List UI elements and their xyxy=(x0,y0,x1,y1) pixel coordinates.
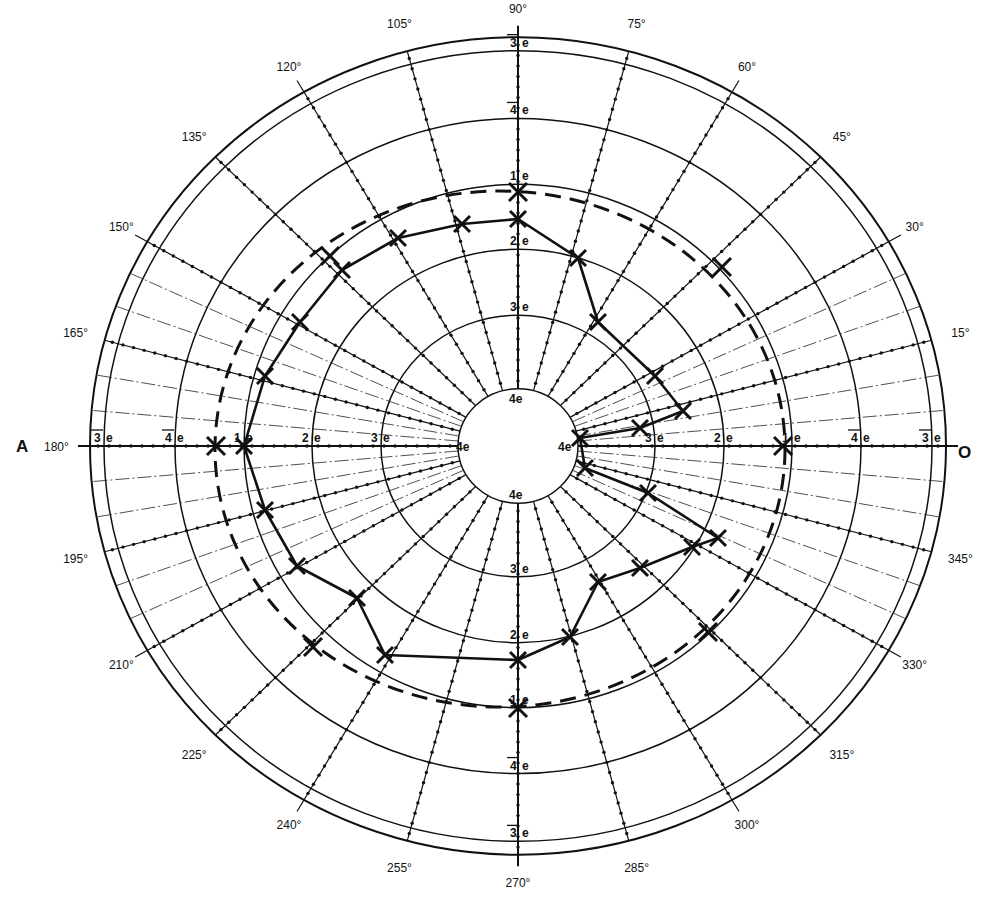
radial-dot xyxy=(356,710,359,713)
radial-dot xyxy=(516,740,519,743)
radial-dot xyxy=(490,537,493,540)
radial-dot xyxy=(297,654,300,657)
radial-dot xyxy=(709,494,712,497)
radial-dot xyxy=(516,379,519,382)
radial-dot xyxy=(625,832,628,835)
radial-dot xyxy=(261,444,264,447)
radial-dot xyxy=(487,341,490,344)
radial-dot xyxy=(837,444,840,447)
radial-dot xyxy=(715,115,718,118)
radial-dot xyxy=(683,444,686,447)
angle-label: 210° xyxy=(109,658,134,672)
radial-dot xyxy=(709,338,712,341)
radial-dot xyxy=(282,220,285,223)
radial-dot xyxy=(593,425,596,428)
radial-dot xyxy=(206,444,209,447)
radial-dot xyxy=(281,384,284,387)
radial-dot xyxy=(408,472,411,475)
radial-dot xyxy=(306,792,309,795)
radial-dot xyxy=(516,593,519,596)
radial-dot xyxy=(372,682,375,685)
radial-dot xyxy=(516,719,519,722)
radial-dot xyxy=(784,513,787,516)
minor-radial xyxy=(92,410,459,441)
ring-label: 4e xyxy=(509,392,523,406)
radial-dot xyxy=(438,487,441,490)
radial-dot xyxy=(390,565,393,568)
ring-label-e: e xyxy=(522,169,529,183)
radial-dot xyxy=(798,176,801,179)
radial-dot xyxy=(709,395,712,398)
radial-dot xyxy=(622,270,625,273)
radial-dot xyxy=(470,608,473,611)
radial-dot xyxy=(595,444,598,447)
radial-dot xyxy=(320,257,323,260)
radial-dot xyxy=(410,822,413,825)
radial-dot xyxy=(272,444,275,447)
radial-dot xyxy=(622,822,625,825)
radial-dot xyxy=(400,380,403,383)
radial-dot xyxy=(579,669,582,672)
radial-dot xyxy=(613,391,616,394)
radial-dot xyxy=(181,629,184,632)
radial-dot xyxy=(667,406,670,409)
radial-dot xyxy=(228,444,231,447)
radial-dot xyxy=(372,206,375,209)
radial-dot xyxy=(911,343,914,346)
radial-dot xyxy=(625,57,628,60)
radial-dot xyxy=(496,517,499,520)
radial-dot xyxy=(737,323,740,326)
radial-dot xyxy=(816,368,819,371)
radial-dot xyxy=(425,118,428,121)
radial-dot xyxy=(667,483,670,486)
radial-dot xyxy=(871,249,874,252)
radial-dot xyxy=(638,242,641,245)
radial-dot xyxy=(375,579,378,582)
minor-radial xyxy=(130,273,464,422)
radial-dot xyxy=(438,315,441,318)
radial-dot xyxy=(516,803,519,806)
radial-dot xyxy=(682,719,685,722)
radial-dot xyxy=(456,659,459,662)
radial-dot xyxy=(449,555,452,558)
radial-dot xyxy=(516,117,519,120)
radial-dot xyxy=(210,613,213,616)
radial-dot xyxy=(545,341,548,344)
radial-dot xyxy=(121,343,124,346)
radial-dot xyxy=(305,646,308,649)
radial-dot xyxy=(710,764,713,767)
radial-dot xyxy=(554,311,557,314)
radial-dot xyxy=(798,713,801,716)
radial-dot xyxy=(473,598,476,601)
radial-dot xyxy=(751,668,754,671)
radial-dot xyxy=(880,244,883,247)
radial-dot xyxy=(848,360,851,363)
radial-dot xyxy=(690,349,693,352)
side-label-left: A xyxy=(16,437,28,456)
radial-dot xyxy=(756,312,759,315)
radial-dot xyxy=(516,751,519,754)
radial-dot xyxy=(826,444,829,447)
solid-isopter xyxy=(236,211,726,668)
radial-dot xyxy=(826,365,829,368)
radial-dot xyxy=(444,324,447,327)
radial-dot xyxy=(704,755,707,758)
radial-dot xyxy=(344,609,347,612)
radial-dot xyxy=(499,382,502,385)
radial-dot xyxy=(622,619,625,622)
radial-dot xyxy=(574,240,577,243)
radial-dot xyxy=(516,169,519,172)
angle-label: 45° xyxy=(833,130,851,144)
polar-grid: 4e3e2e1e4e3e4e3e2e1e4e3e4e3e2e1e4e3e4e3e… xyxy=(78,26,958,866)
perimeter-chart: 4e3e2e1e4e3e4e3e2e1e4e3e4e3e2e1e4e3e4e3e… xyxy=(0,0,989,903)
radial-dot xyxy=(484,331,487,334)
radial-dot xyxy=(826,524,829,527)
radial-dot xyxy=(343,349,346,352)
radial-dot xyxy=(680,354,683,357)
ring-label: 2 xyxy=(510,234,517,248)
radial-dot xyxy=(471,519,474,522)
radial-dot xyxy=(591,179,594,182)
radial-dot xyxy=(593,464,596,467)
radial-dot xyxy=(453,505,456,508)
radial-dot xyxy=(439,168,442,171)
